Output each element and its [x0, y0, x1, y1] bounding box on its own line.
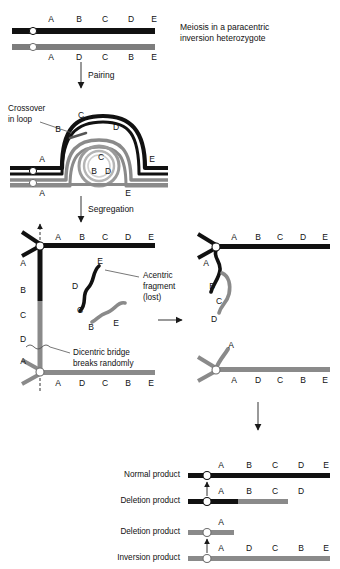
- normal-product-gene-d: D: [295, 460, 307, 470]
- loop-gene-left-gray-a: A: [36, 188, 48, 198]
- broken-black-gene-b: B: [252, 232, 264, 242]
- normal-product-gene-a: A: [215, 460, 227, 470]
- gene-label-normal-e: E: [148, 14, 160, 24]
- product-row-deletion-1: [188, 498, 288, 506]
- broken-gray-gene-b: B: [297, 375, 309, 385]
- bridge-gene-b: B: [17, 285, 29, 295]
- inversion-product-gene-c: C: [269, 543, 281, 553]
- figure-caption-line2: inversion heterozygote: [180, 33, 266, 44]
- bridge-top-gene-d: D: [122, 232, 134, 242]
- gene-label-normal-b: B: [73, 14, 85, 24]
- loop-gene-left-black-a: A: [36, 154, 48, 164]
- crossover-label-line2: in loop: [8, 115, 32, 125]
- inversion-product-gene-b: B: [295, 543, 307, 553]
- inversion-product-gene-d: D: [243, 543, 255, 553]
- bridge-top-gene-a: A: [52, 232, 64, 242]
- bridge-gene-c: C: [17, 310, 29, 320]
- deletion1-gene-a: A: [215, 486, 227, 496]
- acentric-gray-gene-b: B: [85, 322, 97, 332]
- figure-canvas: Meiosis in a paracentric inversion heter…: [0, 0, 340, 569]
- gene-label-normal-c: C: [99, 14, 111, 24]
- bridge-bottom-gene-b: B: [122, 378, 134, 388]
- broken-tail-gene-d: D: [208, 314, 220, 324]
- segregation-arrow-label: Segregation: [88, 204, 134, 215]
- broken-gray-gene-e: E: [319, 375, 331, 385]
- broken-gray-product-group: [198, 349, 330, 381]
- product-row-normal: [188, 472, 330, 480]
- normal-product-gene-b: B: [243, 460, 255, 470]
- bridge-bottom-gene-a: A: [52, 378, 64, 388]
- loop-gene-inner-c: C: [95, 152, 107, 162]
- broken-tail-gene-b: B: [206, 281, 218, 291]
- deletion2-gene-a: A: [215, 517, 227, 527]
- bridge-bottom-gene-d: D: [76, 378, 88, 388]
- dicentric-label-line1: Dicentric bridge: [73, 348, 130, 358]
- deletion1-gene-d: D: [295, 486, 307, 496]
- acentric-label-line1: Acentric: [143, 271, 173, 281]
- acentric-black-gene-c: C: [74, 305, 86, 315]
- deletion1-gene-b: B: [243, 486, 255, 496]
- acentric-label-line2: fragment: [143, 282, 175, 292]
- loop-gene-inner-b: B: [88, 166, 100, 176]
- product-label-normal: Normal product: [100, 470, 180, 479]
- gene-label-inverted-d: D: [73, 52, 85, 62]
- bridge-top-gene-b: B: [76, 232, 88, 242]
- gene-label-inverted-a: A: [45, 52, 57, 62]
- top-normal-chromatid: [12, 27, 155, 34]
- pairing-arrow-label: Pairing: [88, 70, 114, 81]
- acentric-label-line3: (lost): [143, 293, 161, 303]
- product-row-inversion: [188, 555, 330, 563]
- broken-black-gene-d: D: [297, 232, 309, 242]
- crossover-label-line1: Crossover: [8, 104, 45, 114]
- bridge-bottom-gene-c: C: [99, 378, 111, 388]
- broken-gray-gene-a: A: [228, 375, 240, 385]
- broken-black-gene-c: C: [274, 232, 286, 242]
- bridge-top-gene-e: E: [145, 232, 157, 242]
- loop-gene-inner-d: D: [102, 166, 114, 176]
- broken-black-gene-e: E: [319, 232, 331, 242]
- bridge-gene-a-upper: A: [17, 258, 29, 268]
- broken-black-gene-a: A: [228, 232, 240, 242]
- bridge-gene-a-lower: A: [17, 356, 29, 366]
- broken-tail-gene-a: A: [200, 258, 212, 268]
- product-row-deletion-2: [188, 529, 234, 537]
- loop-gene-outer-c: C: [75, 110, 87, 120]
- bridge-gene-d: D: [17, 334, 29, 344]
- loop-gene-right-black-e: E: [146, 154, 158, 164]
- deletion1-gene-c: C: [269, 486, 281, 496]
- acentric-gray-gene-e: E: [110, 318, 122, 328]
- broken-gray-tail-gene-a: A: [225, 340, 237, 350]
- product-label-inversion: Inversion product: [100, 553, 180, 562]
- broken-gray-gene-d: D: [252, 375, 264, 385]
- bridge-bottom-gene-e: E: [145, 378, 157, 388]
- gene-label-inverted-b: B: [125, 52, 137, 62]
- gene-label-inverted-e: E: [148, 52, 160, 62]
- broken-tail-gene-c: C: [213, 296, 225, 306]
- inversion-product-gene-a: A: [215, 543, 227, 553]
- acentric-black-gene-d: D: [69, 281, 81, 291]
- normal-product-gene-e: E: [320, 460, 332, 470]
- product-label-deletion-2: Deletion product: [100, 527, 180, 536]
- loop-gene-outer-d: D: [110, 122, 122, 132]
- loop-gene-outer-b: B: [52, 124, 64, 134]
- acentric-black-gene-e: E: [94, 256, 106, 266]
- inversion-product-gene-e: E: [320, 543, 332, 553]
- gene-label-inverted-c: C: [99, 52, 111, 62]
- inversion-loop-group: [10, 116, 168, 187]
- figure-caption-line1: Meiosis in a paracentric: [180, 22, 269, 33]
- gene-label-normal-d: D: [125, 14, 137, 24]
- dicentric-label-line2: breaks randomly: [73, 359, 134, 369]
- loop-gene-right-gray-e: E: [122, 188, 134, 198]
- product-label-deletion-1: Deletion product: [100, 496, 180, 505]
- bridge-top-gene-c: C: [99, 232, 111, 242]
- top-inverted-chromatid: [12, 43, 155, 50]
- broken-gray-gene-c: C: [274, 375, 286, 385]
- gene-label-normal-a: A: [45, 14, 57, 24]
- normal-product-gene-c: C: [269, 460, 281, 470]
